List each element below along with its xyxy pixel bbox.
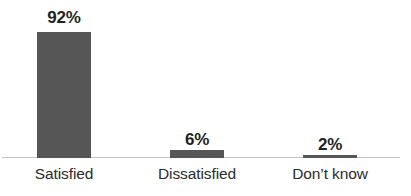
category-label-dissatisfied: Dissatisfied bbox=[141, 164, 253, 183]
plot-area: 92% Satisfied 6% Dissatisfied 2% Don’t k… bbox=[0, 0, 411, 196]
bar-value-satisfied: 92% bbox=[37, 9, 91, 26]
bar-value-dissatisfied: 6% bbox=[170, 131, 224, 148]
category-label-dont-know: Don’t know bbox=[276, 164, 384, 183]
bar-dissatisfied[interactable] bbox=[170, 150, 224, 158]
bar-dont-know[interactable] bbox=[303, 155, 357, 158]
category-label-satisfied: Satisfied bbox=[14, 164, 114, 183]
bar-value-dont-know: 2% bbox=[303, 136, 357, 153]
bar-satisfied[interactable] bbox=[37, 32, 91, 158]
bar-chart: 92% Satisfied 6% Dissatisfied 2% Don’t k… bbox=[0, 0, 411, 196]
